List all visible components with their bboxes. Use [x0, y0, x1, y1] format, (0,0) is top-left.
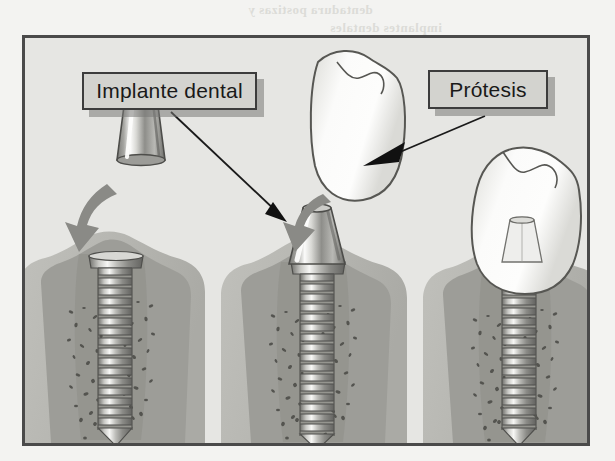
showthrough-line: dentadura postizas y	[248, 2, 373, 18]
crown-seated-right	[472, 148, 581, 294]
prosthesis-pointer-line	[400, 116, 485, 152]
scanned-page: dentadura postizas yimplantes dentalesla…	[0, 0, 615, 461]
stage-1-group	[25, 94, 205, 444]
label-protesis: Prótesis	[428, 70, 548, 109]
showthrough-line: implantes dentales	[330, 20, 442, 36]
stage-3-group	[423, 148, 587, 443]
implant-pointer-line	[171, 112, 278, 213]
label-protesis-text: Prótesis	[449, 78, 526, 102]
label-implante-dental-text: Implante dental	[96, 79, 243, 103]
crown-detached	[311, 51, 405, 201]
label-implante-dental: Implante dental	[82, 72, 257, 110]
figure-frame: Implante dental Prótesis	[22, 35, 590, 446]
